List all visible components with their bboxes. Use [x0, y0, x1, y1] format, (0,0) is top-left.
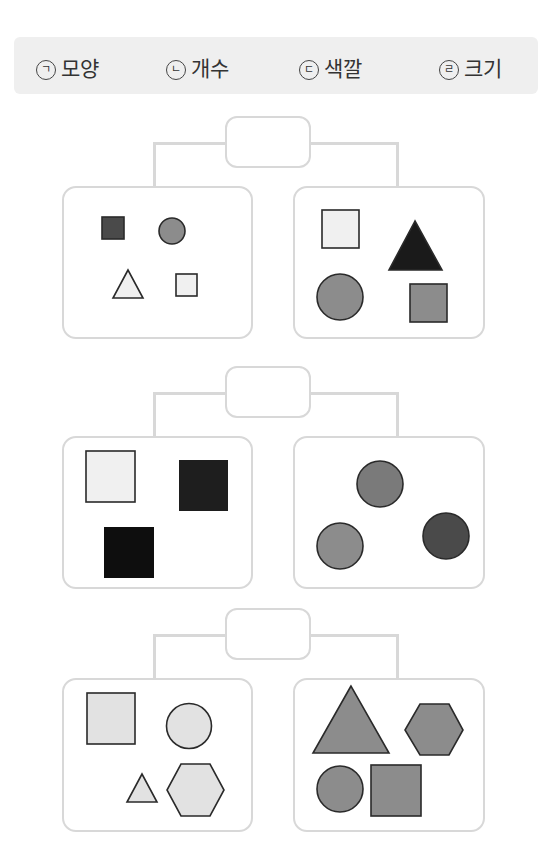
light-square-shape [87, 693, 135, 744]
black-triangle-shape [389, 221, 442, 270]
gray-square-shape [371, 765, 421, 816]
white-square-shape [176, 274, 197, 296]
gray-circle-shape [317, 766, 363, 812]
gray-circle-shape [357, 461, 403, 507]
light-circle-shape [167, 704, 212, 749]
gray-square-shape [410, 284, 447, 322]
white-square-shape [322, 210, 359, 248]
white-square-shape [86, 451, 135, 502]
light-hexagon-shape [167, 764, 224, 816]
white-triangle-shape [113, 270, 143, 298]
black-square-shape [179, 460, 228, 511]
gray-hexagon-shape [405, 704, 463, 755]
shapes-layer [0, 0, 550, 843]
light-triangle-shape [127, 774, 157, 802]
black-square-shape [104, 527, 154, 578]
gray-circle-shape [159, 218, 185, 244]
gray-circle-shape [317, 523, 363, 569]
gray-triangle-shape [313, 686, 389, 753]
dark-square-shape [102, 217, 124, 239]
gray-circle-shape [317, 274, 363, 320]
dark-circle-shape [423, 513, 469, 559]
